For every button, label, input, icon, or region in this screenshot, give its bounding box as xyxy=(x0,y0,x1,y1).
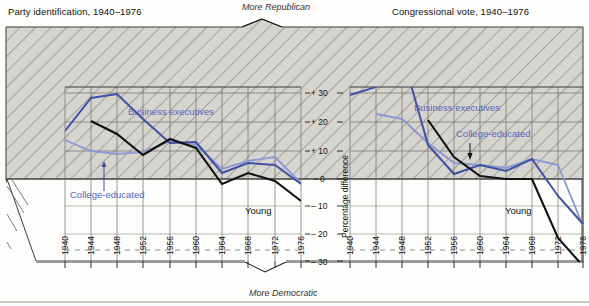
svg-text:1956: 1956 xyxy=(165,236,175,255)
svg-text:1940: 1940 xyxy=(345,236,355,255)
svg-text:0: 0 xyxy=(320,174,325,184)
svg-text:1960: 1960 xyxy=(191,236,201,255)
right-annotation-young: Young xyxy=(505,205,532,216)
svg-text:+ 30: + 30 xyxy=(311,88,328,98)
right-annotation-college-educated: College-educated xyxy=(456,128,530,139)
svg-text:1940: 1940 xyxy=(60,236,70,255)
svg-text:+ 20: + 20 xyxy=(311,117,328,127)
svg-text:1976: 1976 xyxy=(578,236,588,255)
svg-text:1968: 1968 xyxy=(527,236,537,255)
right-annotation-business-executives: Business executives xyxy=(414,102,500,113)
y-axis-title: Percentage difference xyxy=(340,155,350,238)
svg-text:+ 10: + 10 xyxy=(311,146,328,156)
svg-text:1976: 1976 xyxy=(296,236,306,255)
svg-text:1960: 1960 xyxy=(475,236,485,255)
svg-text:1944: 1944 xyxy=(371,236,381,255)
left-annotation-college-educated: College-educated xyxy=(70,189,144,200)
figure-svg: Business executives College-educated You… xyxy=(0,0,589,306)
svg-text:1948: 1948 xyxy=(112,236,122,255)
left-annotation-business-executives: Business executives xyxy=(128,106,214,117)
svg-text:1948: 1948 xyxy=(397,236,407,255)
svg-text:1972: 1972 xyxy=(553,236,563,255)
svg-text:– 10: – 10 xyxy=(311,201,328,211)
svg-text:1964: 1964 xyxy=(217,236,227,255)
left-annotation-young: Young xyxy=(245,205,272,216)
svg-text:1964: 1964 xyxy=(501,236,511,255)
svg-text:1944: 1944 xyxy=(86,236,96,255)
svg-text:1952: 1952 xyxy=(423,236,433,255)
figure-root: Party identification, 1940–1976 Congress… xyxy=(0,0,589,306)
svg-text:– 20: – 20 xyxy=(311,229,328,239)
svg-text:1972: 1972 xyxy=(270,236,280,255)
svg-text:1968: 1968 xyxy=(243,236,253,255)
svg-text:1956: 1956 xyxy=(449,236,459,255)
svg-text:– 30: – 30 xyxy=(311,257,328,267)
svg-text:1952: 1952 xyxy=(138,236,148,255)
